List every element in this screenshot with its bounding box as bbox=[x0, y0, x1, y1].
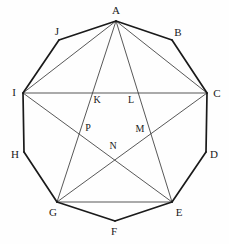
intersection-label-k: K bbox=[93, 95, 100, 105]
intersection-label-l: L bbox=[128, 95, 134, 105]
vertex-label-d: D bbox=[210, 149, 218, 160]
geometry-figure: ABCDEFGHIJKLPMN bbox=[0, 0, 229, 244]
vertex-label-e: E bbox=[176, 207, 183, 218]
vertex-label-b: B bbox=[174, 27, 181, 38]
decagon-diagram bbox=[0, 0, 229, 244]
intersection-label-p: P bbox=[85, 123, 91, 133]
vertex-label-i: I bbox=[12, 87, 16, 98]
edge-hi bbox=[23, 93, 24, 152]
edge-cd bbox=[206, 93, 207, 152]
chord-ae bbox=[116, 21, 172, 202]
edge-fg bbox=[57, 202, 115, 221]
outer-edge-layer bbox=[23, 21, 207, 221]
chord-ag bbox=[57, 21, 116, 202]
chord-ai bbox=[23, 21, 116, 93]
vertex-label-h: H bbox=[11, 149, 19, 160]
vertex-label-a: A bbox=[112, 5, 120, 16]
vertex-label-j: J bbox=[55, 26, 59, 37]
edge-ja bbox=[59, 21, 116, 40]
intersection-label-m: M bbox=[136, 124, 145, 134]
edge-de bbox=[172, 152, 206, 202]
edge-gh bbox=[24, 152, 57, 202]
edge-ab bbox=[116, 21, 172, 40]
chord-layer bbox=[23, 21, 207, 202]
vertex-label-c: C bbox=[213, 88, 220, 99]
chord-ac bbox=[116, 21, 207, 93]
edge-ef bbox=[115, 202, 172, 221]
vertex-label-g: G bbox=[49, 207, 57, 218]
chord-cg bbox=[57, 93, 207, 202]
edge-bc bbox=[172, 40, 207, 93]
edge-ij bbox=[23, 40, 59, 93]
intersection-label-n: N bbox=[109, 141, 116, 151]
vertex-label-f: F bbox=[111, 226, 117, 237]
